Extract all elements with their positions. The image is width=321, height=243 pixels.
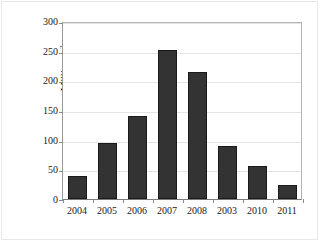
x-axis-tick-label: 2010 xyxy=(242,205,272,217)
y-axis-tick-label: 0 xyxy=(24,195,58,205)
x-tick-mark xyxy=(93,199,94,203)
x-axis-tick-label: 2005 xyxy=(92,205,122,217)
bar-2005 xyxy=(98,143,117,199)
x-axis-tick-label: 2003 xyxy=(212,205,242,217)
bar-slot xyxy=(243,23,273,199)
bar-2011 xyxy=(278,185,297,199)
bar-2004 xyxy=(68,176,87,199)
bar-2003 xyxy=(218,146,237,199)
bar-2008 xyxy=(188,72,207,199)
bar-2010 xyxy=(248,166,267,199)
y-axis-tick-label: 200 xyxy=(24,76,58,86)
y-axis: Million m2 300 250 200 150 100 50 0 xyxy=(18,0,58,243)
x-axis-tick-label: 2008 xyxy=(182,205,212,217)
y-axis-tick-label: 300 xyxy=(24,17,58,27)
bar-2006 xyxy=(128,116,147,199)
x-tick-mark xyxy=(123,199,124,203)
bar-2007 xyxy=(158,50,177,199)
bar-slot xyxy=(153,23,183,199)
bar-slot xyxy=(213,23,243,199)
x-tick-mark xyxy=(183,199,184,203)
x-axis-tick-label: 2011 xyxy=(272,205,302,217)
x-axis-tick-label: 2004 xyxy=(62,205,92,217)
x-tick-mark xyxy=(243,199,244,203)
bar-chart-figure: Million m2 300 250 200 150 100 50 0 xyxy=(0,0,321,243)
x-tick-mark xyxy=(303,199,304,203)
bar-slot xyxy=(93,23,123,199)
bar-slot xyxy=(183,23,213,199)
y-axis-tick-label: 250 xyxy=(24,47,58,57)
bar-slot xyxy=(273,23,303,199)
y-axis-tick-label: 50 xyxy=(24,165,58,175)
x-tick-mark xyxy=(63,199,64,203)
bar-series xyxy=(63,23,301,199)
x-tick-mark xyxy=(213,199,214,203)
y-axis-tick-label: 100 xyxy=(24,136,58,146)
x-axis: 2004 2005 2006 2007 2008 2003 2010 2011 xyxy=(62,205,302,221)
plot-area xyxy=(62,22,302,200)
y-axis-tick-label: 150 xyxy=(24,106,58,116)
x-tick-mark xyxy=(273,199,274,203)
x-axis-tick-label: 2006 xyxy=(122,205,152,217)
x-axis-tick-label: 2007 xyxy=(152,205,182,217)
x-tick-mark xyxy=(153,199,154,203)
bar-slot xyxy=(63,23,93,199)
bar-slot xyxy=(123,23,153,199)
